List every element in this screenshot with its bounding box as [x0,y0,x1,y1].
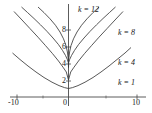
plot-canvas [0,0,152,113]
parabola-family-chart: 8 6 4 2 -10 0 10 k = 12 k = 8 k = 4 k = … [0,0,152,113]
curve-k1 [13,48,132,89]
